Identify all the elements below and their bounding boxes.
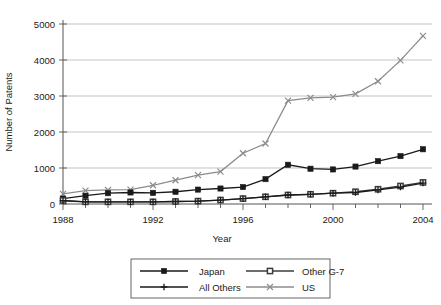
data-point-marker [150, 190, 155, 195]
gridlines-group [63, 24, 432, 168]
data-point-marker [375, 78, 381, 84]
data-point-marker [398, 154, 403, 159]
legend-item-label: US [302, 282, 315, 293]
y-tick-label: 1000 [34, 163, 55, 174]
x-tick-label: 1992 [142, 214, 163, 225]
legend-item-label: Japan [199, 266, 225, 277]
patents-line-chart: 010002000300040005000 198819921996200020… [0, 0, 441, 305]
data-point-marker [285, 162, 290, 167]
data-point-marker [161, 284, 167, 290]
series-line [63, 36, 423, 194]
data-point-marker [267, 268, 272, 273]
data-point-marker [263, 177, 268, 182]
y-axis-title: Number of Patents [3, 72, 14, 151]
data-point-marker [161, 268, 166, 273]
legend-item-label: All Others [199, 282, 241, 293]
x-tick-label: 2004 [412, 214, 433, 225]
x-tick-label: 1988 [52, 214, 73, 225]
y-tick-label: 4000 [34, 55, 55, 66]
x-tick-label: 1996 [232, 214, 253, 225]
y-tick-label: 2000 [34, 127, 55, 138]
x-axis-title: Year [212, 233, 231, 244]
data-point-marker [218, 186, 223, 191]
data-point-marker [83, 193, 88, 198]
legend-item-us[interactable]: US [246, 282, 315, 293]
y-tick-label: 5000 [34, 19, 55, 30]
data-point-marker [420, 33, 426, 39]
data-point-marker [240, 150, 246, 156]
legend-item-other-g-7[interactable]: Other G-7 [246, 266, 344, 277]
data-series-group [60, 33, 426, 205]
legend-item-label: Other G-7 [302, 266, 344, 277]
y-tick-label: 3000 [34, 91, 55, 102]
x-axis-ticks-group: 19881992199620002004 [52, 204, 433, 225]
series-us [60, 33, 426, 197]
data-point-marker [353, 164, 358, 169]
y-tick-label: 0 [50, 199, 55, 210]
chart-canvas: 010002000300040005000 198819921996200020… [0, 0, 441, 305]
legend-item-japan[interactable]: Japan [140, 266, 225, 277]
legend-item-all-others[interactable]: All Others [140, 282, 241, 293]
data-point-marker [195, 187, 200, 192]
series-japan [60, 147, 425, 202]
data-point-marker [420, 147, 425, 152]
data-point-marker [263, 141, 269, 147]
data-point-marker [173, 189, 178, 194]
data-point-marker [128, 190, 133, 195]
data-point-marker [105, 191, 110, 196]
y-axis-ticks-group: 010002000300040005000 [34, 19, 67, 210]
data-point-marker [308, 166, 313, 171]
data-point-marker [375, 159, 380, 164]
chart-legend: JapanAll OthersOther G-7US [131, 259, 344, 298]
data-point-marker [240, 184, 245, 189]
x-tick-label: 2000 [322, 214, 343, 225]
data-point-marker [330, 167, 335, 172]
